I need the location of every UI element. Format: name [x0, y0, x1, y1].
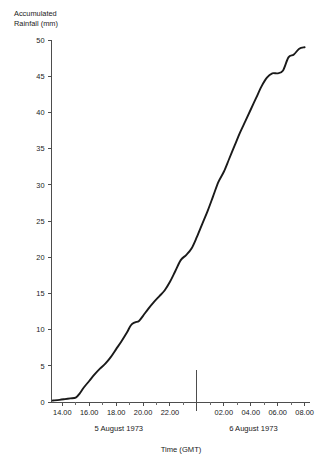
x-tick-label-06.00: 06.00 [268, 408, 287, 417]
y-axis-ticks: 05101520253035404550 [36, 36, 51, 407]
y-tick-label-45: 45 [36, 72, 44, 81]
x-tick-label-04.00: 04.00 [242, 408, 261, 417]
y-tick-label-5: 5 [40, 362, 44, 371]
y-axis-label-line2: Rainfall (mm) [14, 19, 58, 28]
x-tick-label-02.00: 02.00 [215, 408, 234, 417]
y-axis-label: Accumulated Rainfall (mm) [14, 9, 58, 28]
y-tick-label-10: 10 [36, 325, 44, 334]
y-tick-label-20: 20 [36, 253, 44, 262]
y-axis-label-line1: Accumulated [14, 9, 57, 18]
day-label-1: 5 August 1973 [95, 424, 144, 433]
y-tick-label-50: 50 [36, 36, 44, 45]
x-tick-label-18.00: 18.00 [107, 408, 126, 417]
y-tick-label-30: 30 [36, 181, 44, 190]
x-tick-label-14.00: 14.00 [53, 408, 72, 417]
y-tick-label-25: 25 [36, 217, 44, 226]
x-tick-label-22.00: 22.00 [161, 408, 180, 417]
x-axis-title: Time (GMT) [161, 445, 202, 454]
y-tick-label-40: 40 [36, 108, 44, 117]
y-tick-label-35: 35 [36, 144, 44, 153]
x-tick-label-20.00: 20.00 [134, 408, 153, 417]
day-labels: 5 August 19736 August 1973 [95, 424, 278, 433]
chart-canvas: Accumulated Rainfall (mm) 05101520253035… [0, 0, 330, 463]
day-label-2: 6 August 1973 [229, 424, 278, 433]
x-tick-label-08.00: 08.00 [295, 408, 314, 417]
rainfall-chart: Accumulated Rainfall (mm) 05101520253035… [0, 0, 330, 463]
rainfall-accumulation-line [53, 47, 305, 400]
y-tick-label-15: 15 [36, 289, 44, 298]
x-tick-label-16.00: 16.00 [80, 408, 99, 417]
y-tick-label-0: 0 [40, 398, 44, 407]
